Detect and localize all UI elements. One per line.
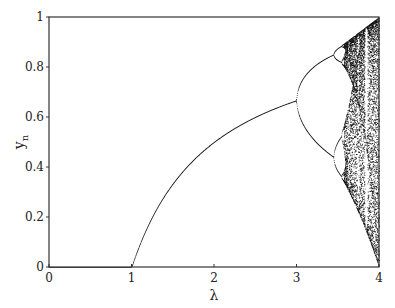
y-tick-label: 0.8 bbox=[25, 60, 44, 74]
y-tick-label: 0 bbox=[36, 260, 44, 274]
y-tick-label: 1 bbox=[36, 10, 44, 24]
svg-text:yn: yn bbox=[11, 134, 30, 150]
y-tick-label: 0.2 bbox=[25, 210, 44, 224]
x-axis-label: λ bbox=[210, 287, 219, 303]
y-axis-label: yn bbox=[11, 134, 30, 150]
x-tick-label: 0 bbox=[45, 271, 53, 285]
data-points bbox=[49, 17, 380, 267]
x-tick-label: 4 bbox=[375, 271, 383, 285]
bifurcation-chart: 01234 00.20.40.60.81 λ yn bbox=[0, 0, 395, 308]
y-tick-label: 0.4 bbox=[25, 160, 44, 174]
x-tick-label: 1 bbox=[128, 271, 136, 285]
x-tick-label: 3 bbox=[293, 271, 301, 285]
bifurcation-points bbox=[49, 17, 380, 267]
x-tick-label: 2 bbox=[210, 271, 218, 285]
y-tick-label: 0.6 bbox=[25, 110, 44, 124]
